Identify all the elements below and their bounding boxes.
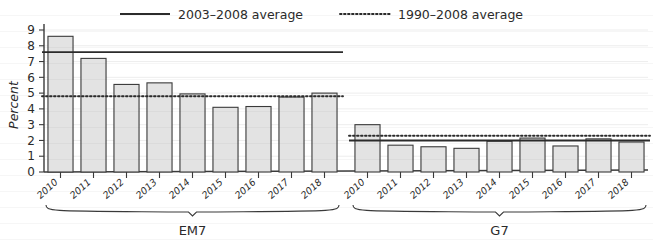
group-brace (353, 205, 646, 216)
group-label-em7: EM7 (179, 223, 207, 238)
x-tick-label: 2017 (573, 176, 598, 200)
y-tick-label: 7 (27, 55, 35, 69)
x-tick-label: 2015 (200, 176, 225, 200)
legend-label: 2003–2008 average (178, 7, 303, 22)
bar (180, 94, 205, 172)
chart-figure: 0123456789 20102011201220132014201520162… (0, 0, 653, 250)
y-tick-label: 6 (27, 71, 35, 85)
x-tick-label: 2014 (167, 176, 192, 200)
x-tick-label: 2014 (474, 176, 499, 200)
bar (553, 146, 578, 172)
y-tick-label: 8 (27, 39, 35, 53)
x-tick-label: 2010 (35, 176, 60, 200)
x-tick-label: 2011 (375, 176, 400, 200)
x-tick-label: 2012 (408, 176, 433, 200)
bar (520, 138, 545, 172)
bar (421, 147, 446, 172)
x-tick-label: 2015 (507, 176, 532, 200)
bars-group (48, 36, 644, 172)
bar-chart-svg: 0123456789 20102011201220132014201520162… (0, 0, 653, 250)
bar (619, 142, 644, 172)
bar (586, 139, 611, 172)
bar (454, 148, 479, 172)
bar (355, 125, 380, 172)
x-tick-label: 2016 (540, 176, 565, 200)
chart-legend: 2003–2008 average1990–2008 average (120, 7, 523, 22)
y-tick-label: 3 (27, 118, 35, 132)
bar (114, 84, 139, 172)
bar (213, 107, 238, 172)
group-braces (46, 205, 646, 216)
bar (81, 58, 106, 172)
bar (312, 93, 337, 172)
y-axis-title: Percent (6, 80, 21, 129)
bar (48, 36, 73, 172)
x-tick-label: 2013 (134, 176, 159, 200)
x-tick-label: 2010 (342, 176, 367, 200)
bar (388, 145, 413, 172)
x-tick-label: 2018 (299, 176, 324, 200)
y-tick-label: 0 (27, 165, 35, 179)
bar (487, 141, 512, 172)
x-tick-label: 2011 (68, 176, 93, 200)
group-labels: EM7G7 (179, 223, 509, 238)
x-axis-ticks (61, 172, 632, 178)
y-tick-label: 2 (27, 134, 35, 148)
bar (279, 97, 304, 172)
x-tick-label: 2013 (441, 176, 466, 200)
y-tick-label: 4 (27, 102, 35, 116)
legend-label: 1990–2008 average (398, 7, 523, 22)
x-tick-label: 2016 (233, 176, 258, 200)
y-axis-ticks: 0123456789 (27, 23, 44, 179)
x-axis-labels: 2010201120122013201420152016201720182010… (35, 176, 631, 200)
group-label-g7: G7 (490, 223, 508, 238)
x-tick-label: 2017 (266, 176, 291, 200)
y-tick-label: 1 (27, 149, 35, 163)
y-tick-label: 5 (27, 86, 35, 100)
x-tick-label: 2018 (606, 176, 631, 200)
x-tick-label: 2012 (101, 176, 126, 200)
group-brace (46, 205, 339, 216)
y-tick-label: 9 (27, 23, 35, 37)
bar (246, 107, 271, 172)
